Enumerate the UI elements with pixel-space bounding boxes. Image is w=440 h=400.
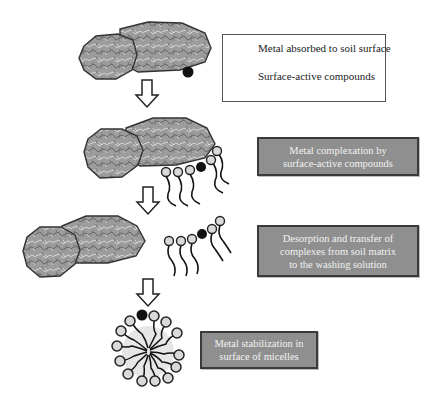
legend-item-surfactant: Surface-active compounds: [223, 70, 385, 90]
legend-surfactant-label: Surface-active compounds: [258, 70, 375, 82]
micelle: [112, 310, 184, 387]
step-label-line: surface of micelles: [202, 350, 316, 363]
metal-ion-icon: [197, 229, 207, 239]
step-box-stabilization: Metal stabilization in surface of micell…: [200, 331, 318, 369]
legend-item-metal: Metal absorbed to soil surface: [223, 42, 385, 62]
step-box-complexation: Metal complexation by surface-active com…: [257, 137, 419, 176]
metal-ion-icon: [183, 67, 194, 78]
step-label-line: complexes from soil matrix: [259, 245, 417, 258]
surfactant-heads-stage3: [165, 217, 225, 246]
soil-particle-stage3: [23, 216, 145, 277]
legend-metal-label: Metal absorbed to soil surface: [258, 42, 391, 54]
step-label-line: Metal stabilization in: [202, 337, 316, 350]
soil-particle-stage2: [84, 118, 215, 178]
step-label-line: Desorption and transfer of: [259, 232, 417, 245]
step-label-line: surface-active compounds: [259, 157, 417, 170]
step-label-line: to the washing solution: [259, 258, 417, 271]
arrow-down-icon: [137, 279, 159, 306]
arrow-down-icon: [137, 187, 159, 214]
legend: Metal absorbed to soil surface Surface-a…: [222, 34, 386, 102]
metal-ion-icon: [196, 162, 206, 172]
arrow-down-icon: [136, 80, 158, 107]
metal-ion-icon: [137, 310, 148, 321]
step-box-desorption: Desorption and transfer of complexes fro…: [257, 225, 419, 277]
step-label-line: Metal complexation by: [259, 144, 417, 157]
